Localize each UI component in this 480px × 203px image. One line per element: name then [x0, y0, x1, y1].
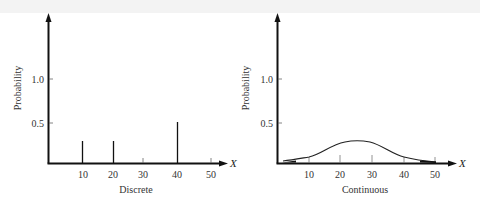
x-tick-label-20: 20 [335, 169, 345, 180]
x-tick-label-10: 10 [78, 169, 88, 180]
x-axis-variable: X [229, 157, 238, 169]
chart-caption-continuous: Continuous [342, 184, 388, 195]
x-tick-label-50: 50 [206, 169, 216, 180]
x-tick-label-40: 40 [172, 169, 182, 180]
x-tick-label-10: 10 [304, 169, 314, 180]
y-tick-label-0.5: 0.5 [32, 118, 45, 129]
y-axis-title: Probability [240, 66, 251, 110]
x-tick-label-50: 50 [430, 169, 440, 180]
x-tick-label-40: 40 [399, 169, 409, 180]
y-tick-label-1.0: 1.0 [261, 74, 274, 85]
density-curve [283, 141, 436, 162]
discrete-chart: 1.0 0.5 10 20 30 40 50 X Probability Dis… [12, 13, 238, 195]
y-axis-arrow-icon [275, 13, 281, 22]
y-axis-title: Probability [12, 66, 23, 110]
x-axis-arrow-icon [448, 161, 457, 167]
x-tick-label-30: 30 [138, 169, 148, 180]
y-tick-label-1.0: 1.0 [32, 74, 45, 85]
chart-caption-discrete: Discrete [119, 184, 153, 195]
y-tick-label-0.5: 0.5 [261, 118, 274, 129]
x-axis-variable: X [458, 157, 467, 169]
x-tick-label-20: 20 [108, 169, 118, 180]
x-tick-label-30: 30 [367, 169, 377, 180]
x-axis-arrow-icon [219, 161, 228, 167]
figure: 1.0 0.5 10 20 30 40 50 X Probability Dis… [0, 0, 480, 203]
y-axis-arrow-icon [46, 13, 52, 22]
continuous-chart: 1.0 0.5 10 20 30 40 50 X Probability Con… [240, 13, 467, 195]
